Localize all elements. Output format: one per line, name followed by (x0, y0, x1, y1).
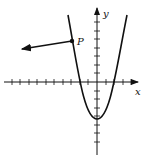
y-axis-label: y (102, 8, 109, 19)
x-axis-label: x (135, 86, 141, 97)
point-p-label: P (76, 36, 84, 47)
vector-arrow (22, 41, 72, 49)
point-p (70, 39, 74, 43)
coordinate-graph: x y P (0, 0, 142, 158)
